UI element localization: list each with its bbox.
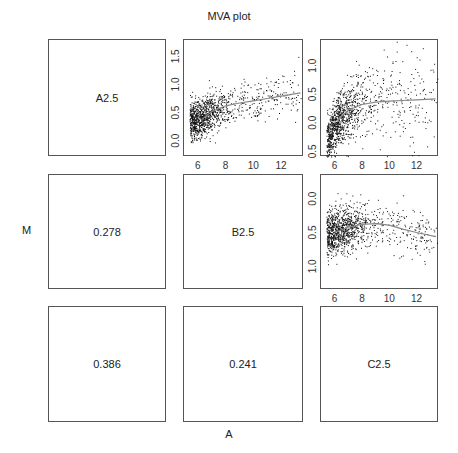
x-tick-label: 8 [359, 293, 365, 304]
scatter-panel-b-c: 6810120.00.51.0 [320, 174, 438, 289]
y-tick-label: 1.0 [307, 58, 318, 72]
x-tick-label: 8 [359, 160, 365, 171]
correlation-value: 0.241 [184, 358, 302, 370]
y-tick-label: 0.5 [307, 144, 318, 158]
y-tick-label: 1.0 [307, 259, 318, 273]
scatter-plot-b-c: 6810120.00.51.0 [321, 175, 439, 290]
x-tick-label: 10 [384, 160, 396, 171]
x-tick-label: 12 [411, 293, 423, 304]
x-axis-label: A [0, 428, 458, 440]
x-tick-label: 10 [384, 293, 396, 304]
diagonal-panel-a: A2.5 [48, 39, 166, 156]
x-tick-label: 10 [248, 160, 260, 171]
y-tick-label: 0.0 [307, 191, 318, 205]
x-tick-label: 6 [332, 160, 338, 171]
correlation-panel-c-b: 0.241 [183, 306, 303, 422]
y-axis-label: M [22, 224, 31, 236]
x-tick-label: 12 [276, 160, 288, 171]
y-tick-label: 1.5 [170, 49, 181, 63]
x-tick-label: 8 [223, 160, 229, 171]
correlation-panel-c-a: 0.386 [48, 306, 166, 422]
x-tick-label: 6 [332, 293, 338, 304]
correlation-panel-b-a: 0.278 [48, 174, 166, 289]
scatter-plot-a-c: 6810120.50.00.51.0 [321, 40, 439, 157]
scatter-plot-a-b: 6810120.00.51.01.5 [184, 40, 304, 157]
correlation-value: 0.386 [49, 358, 165, 370]
y-tick-label: 1.0 [170, 77, 181, 91]
diagonal-panel-c: C2.5 [320, 306, 438, 422]
x-tick-label: 12 [411, 160, 423, 171]
diagonal-label-c: C2.5 [321, 358, 437, 370]
y-tick-label: 0.0 [307, 115, 318, 129]
y-tick-label: 0.5 [170, 105, 181, 119]
y-tick-label: 0.5 [307, 87, 318, 101]
x-tick-label: 6 [195, 160, 201, 171]
y-tick-label: 0.0 [170, 133, 181, 147]
scatter-panel-a-b: 6810120.00.51.01.5 [183, 39, 303, 156]
scatter-panel-a-c: 6810120.50.00.51.0 [320, 39, 438, 156]
diagonal-label-a: A2.5 [49, 92, 165, 104]
chart-title: MVA plot [0, 10, 458, 22]
diagonal-label-b: B2.5 [184, 226, 302, 238]
correlation-value: 0.278 [49, 226, 165, 238]
diagonal-panel-b: B2.5 [183, 174, 303, 289]
data-points [190, 57, 302, 143]
y-tick-label: 0.5 [307, 225, 318, 239]
